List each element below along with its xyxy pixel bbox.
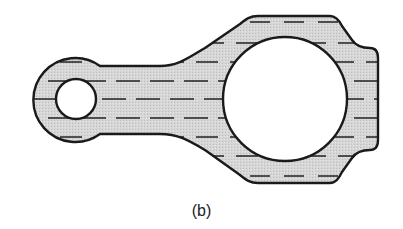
big-end-hole: [223, 37, 347, 161]
figure-caption: (b): [0, 202, 403, 220]
connecting-rod-diagram: [0, 0, 403, 229]
small-end-hole: [56, 79, 96, 119]
